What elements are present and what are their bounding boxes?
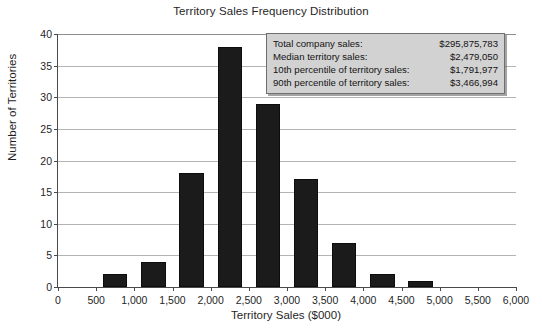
stats-row-label: 10th percentile of territory sales: xyxy=(272,63,430,76)
x-axis-tick-mark xyxy=(440,287,441,291)
x-axis-tick-label: 5,500 xyxy=(465,294,491,306)
x-axis-tick-mark xyxy=(287,287,288,291)
x-axis-tick-label: 4,000 xyxy=(350,294,376,306)
x-axis-tick-label: 500 xyxy=(87,294,105,306)
y-axis-tick-mark xyxy=(54,97,58,98)
gridline xyxy=(58,129,516,130)
y-axis-label: Number of Territories xyxy=(6,54,18,161)
stats-row: Median territory sales:$2,479,050 xyxy=(272,50,499,63)
x-axis-tick-mark xyxy=(516,287,517,291)
x-axis-tick-label: 2,000 xyxy=(198,294,224,306)
y-axis-tick-label: 25 xyxy=(18,123,58,135)
x-axis-tick-label: 4,500 xyxy=(388,294,414,306)
bar xyxy=(408,281,432,287)
y-axis-tick-label: 0 xyxy=(18,281,58,293)
stats-row-label: Median territory sales: xyxy=(272,50,430,63)
x-axis-tick-label: 2,500 xyxy=(236,294,262,306)
gridline xyxy=(58,97,516,98)
stats-row: 10th percentile of territory sales:$1,79… xyxy=(272,63,499,76)
gridline xyxy=(58,224,516,225)
y-axis-tick-label: 35 xyxy=(18,60,58,72)
stats-row: 90th percentile of territory sales:$3,46… xyxy=(272,76,499,89)
x-axis-tick-label: 3,500 xyxy=(312,294,338,306)
x-axis-tick-label: 0 xyxy=(55,294,61,306)
x-axis-tick-mark xyxy=(402,287,403,291)
x-axis-tick-label: 1,000 xyxy=(121,294,147,306)
y-axis-tick-label: 15 xyxy=(18,186,58,198)
x-axis-tick-mark xyxy=(96,287,97,291)
x-axis-tick-mark xyxy=(478,287,479,291)
x-axis-tick-mark xyxy=(363,287,364,291)
bar xyxy=(294,179,318,287)
y-axis-tick-mark xyxy=(54,224,58,225)
x-axis-tick-label: 5,000 xyxy=(427,294,453,306)
y-axis-tick-mark xyxy=(54,129,58,130)
y-axis-tick-label: 10 xyxy=(18,218,58,230)
bar xyxy=(179,173,203,287)
y-axis-tick-label: 40 xyxy=(18,28,58,40)
stats-row-value: $3,466,994 xyxy=(430,76,499,89)
chart-title: Territory Sales Frequency Distribution xyxy=(0,5,542,17)
y-axis-tick-mark xyxy=(54,192,58,193)
bar xyxy=(370,274,394,287)
stats-row-value: $2,479,050 xyxy=(430,50,499,63)
y-axis-tick-label: 20 xyxy=(18,155,58,167)
y-axis-tick-label: 30 xyxy=(18,91,58,103)
x-axis-tick-mark xyxy=(134,287,135,291)
stats-table: Total company sales:$295,875,783Median t… xyxy=(272,37,499,89)
x-axis-tick-mark xyxy=(325,287,326,291)
y-axis-tick-mark xyxy=(54,34,58,35)
bar xyxy=(141,262,165,287)
y-axis-tick-label: 5 xyxy=(18,249,58,261)
x-axis-tick-mark xyxy=(249,287,250,291)
x-axis-tick-mark xyxy=(211,287,212,291)
x-axis-tick-mark xyxy=(58,287,59,291)
bar xyxy=(332,243,356,287)
x-axis-tick-mark xyxy=(173,287,174,291)
stats-row: Total company sales:$295,875,783 xyxy=(272,37,499,50)
y-axis-tick-mark xyxy=(54,255,58,256)
x-axis-label: Territory Sales ($000) xyxy=(57,309,515,321)
gridline xyxy=(58,192,516,193)
x-axis-tick-label: 6,000 xyxy=(503,294,529,306)
x-axis-tick-label: 1,500 xyxy=(159,294,185,306)
x-axis-tick-label: 3,000 xyxy=(274,294,300,306)
bar xyxy=(103,274,127,287)
bar xyxy=(256,104,280,287)
gridline xyxy=(58,161,516,162)
y-axis-tick-mark xyxy=(54,161,58,162)
chart-container: Territory Sales Frequency Distribution N… xyxy=(0,0,542,332)
bar xyxy=(218,47,242,287)
stats-row-label: Total company sales: xyxy=(272,37,430,50)
y-axis-tick-mark xyxy=(54,66,58,67)
gridline xyxy=(58,255,516,256)
stats-row-value: $1,791,977 xyxy=(430,63,499,76)
stats-row-value: $295,875,783 xyxy=(430,37,499,50)
stats-box: Total company sales:$295,875,783Median t… xyxy=(266,33,505,94)
stats-row-label: 90th percentile of territory sales: xyxy=(272,76,430,89)
